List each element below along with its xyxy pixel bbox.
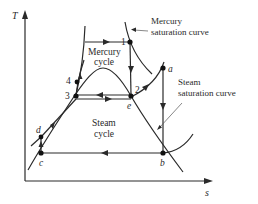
point-d-marker (39, 135, 44, 140)
point-4-marker (75, 80, 80, 85)
arrow-right-icon (105, 96, 112, 102)
steam-cycle-label-1: Steam (92, 118, 116, 128)
mercury-sat-label-2: saturation curve (151, 27, 209, 37)
steam-liquid-heating-line (41, 99, 76, 137)
mercury-sat-leader-line (134, 30, 148, 31)
binary-vapor-cycle-ts-diagram: T s Mercury c (0, 0, 258, 204)
point-c-marker (38, 150, 43, 155)
point-1-label: 1 (121, 37, 126, 47)
arrow-up-icon (39, 141, 44, 147)
mercury-cycle-label-2: cycle (94, 57, 114, 67)
arrow-left-icon (101, 150, 108, 156)
point-b-label: b (160, 158, 165, 168)
s-axis-label: s (205, 187, 209, 198)
mercury-sat-label-1: Mercury (151, 16, 182, 26)
arrow-right-icon (103, 39, 110, 45)
t-axis-label: T (12, 10, 19, 21)
point-3-marker (73, 93, 78, 98)
leader-arrow-icon (131, 28, 136, 33)
arrow-up-icon (78, 73, 83, 79)
arrow-down-icon (128, 66, 134, 73)
cycle-labels: Mercury cycle Steam cycle (88, 47, 121, 139)
point-1-marker (127, 39, 132, 44)
annotations: Mercury saturation curve Steam saturatio… (131, 16, 236, 130)
point-d-label: d (36, 125, 41, 135)
steam-cycle-path (31, 62, 193, 156)
point-e-label: e (127, 101, 131, 111)
arrow-down-icon (160, 103, 166, 110)
point-a-label: a (168, 64, 173, 74)
point-2-marker (128, 93, 133, 98)
point-c-label: c (39, 158, 44, 168)
point-3-label: 3 (65, 91, 70, 101)
t-axis-arrow-icon (22, 10, 28, 19)
axes: T s (12, 10, 213, 198)
point-4-label: 4 (66, 76, 71, 86)
steam-sat-label-2: saturation curve (178, 88, 236, 98)
steam-sat-label-1: Steam (178, 77, 201, 87)
point-a-marker (160, 65, 165, 70)
steam-cycle-label-2: cycle (94, 129, 114, 139)
point-b-marker (160, 150, 165, 155)
point-2-label: 2 (135, 85, 140, 95)
mercury-cycle-label-1: Mercury (88, 47, 121, 57)
arrow-left-icon (96, 92, 103, 98)
s-axis-arrow-icon (204, 178, 213, 184)
